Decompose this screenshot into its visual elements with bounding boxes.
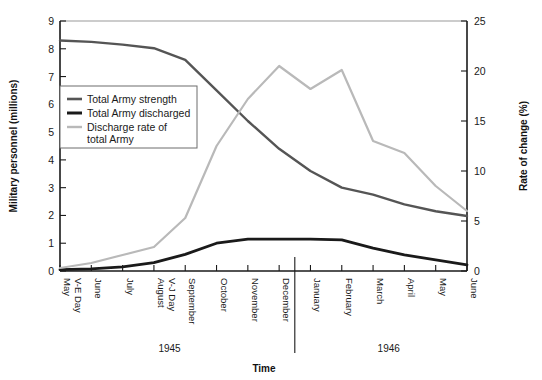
x-category-label: V-J Day: [167, 278, 178, 312]
legend-label: total Army: [87, 133, 134, 145]
x-axis-title: Time: [252, 363, 276, 374]
y-tick-label: 9: [48, 15, 54, 27]
x-category-label: May: [62, 278, 73, 296]
x-category-label: June: [469, 278, 480, 299]
x-category-label: November: [250, 278, 261, 322]
x-category-label: December: [281, 278, 292, 322]
y2-tick-label: 25: [474, 15, 486, 27]
x-category-label: August: [156, 278, 167, 308]
chart-legend: Total Army strengthTotal Army discharged…: [60, 86, 197, 148]
y-tick-label: 5: [48, 126, 54, 138]
y-tick-label: 6: [48, 98, 54, 110]
y-tick-label: 4: [48, 154, 54, 166]
legend-label: Discharge rate of: [87, 121, 167, 133]
y-tick-label: 8: [48, 43, 54, 55]
x-category-label: July: [125, 278, 136, 295]
y2-tick-label: 5: [474, 215, 480, 227]
x-category-label: February: [344, 278, 355, 316]
y-tick-label: 3: [48, 182, 54, 194]
legend-label: Total Army discharged: [87, 107, 190, 119]
y2-tick-label: 15: [474, 115, 486, 127]
y-tick-label: 7: [48, 71, 54, 83]
x-category-label: March: [375, 278, 386, 304]
figure-background: [0, 0, 542, 380]
y2-tick-label: 10: [474, 165, 486, 177]
year-group-label: 1945: [158, 343, 181, 354]
y2-axis-title: Rate of change (%): [518, 101, 529, 191]
y-tick-label: 1: [48, 237, 54, 249]
x-category-label: January: [312, 278, 323, 312]
x-category-label: June: [93, 278, 104, 299]
x-category-label: April: [406, 278, 417, 297]
y-tick-label: 2: [48, 209, 54, 221]
y-axis-title: Military personnel (millions): [8, 80, 19, 213]
legend-label: Total Army strength: [87, 93, 177, 105]
y2-tick-label: 0: [474, 265, 480, 277]
year-group-label: 1946: [378, 343, 401, 354]
y2-tick-label: 20: [474, 65, 486, 77]
y-tick-label: 0: [48, 265, 54, 277]
x-category-label: May: [438, 278, 449, 296]
x-category-label: September: [187, 278, 198, 324]
x-category-label: October: [219, 278, 230, 312]
chart-figure: 0123456789 Military personnel (millions)…: [0, 0, 542, 380]
x-category-label: V-E Day: [73, 278, 84, 313]
